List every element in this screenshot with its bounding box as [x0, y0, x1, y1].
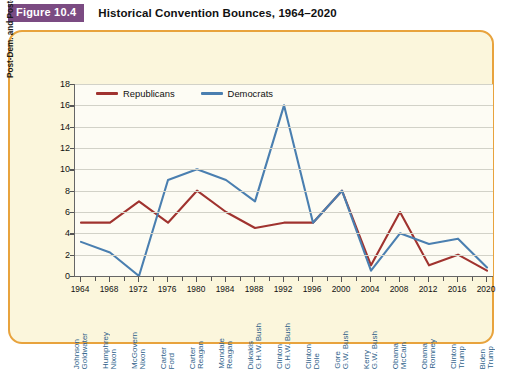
- x-year-label-1988: 1988: [245, 284, 264, 294]
- x-year-label-1964: 1964: [71, 284, 90, 294]
- x-year-label-1984: 1984: [216, 284, 235, 294]
- y-tick-label-16: 16: [48, 100, 70, 110]
- y-tick-label-14: 14: [48, 122, 70, 132]
- x-candidate-label-2004-rep: G.W. Bush: [371, 331, 379, 369]
- y-axis-label: Post-Dem. and Post-Rep. convention bounc…: [6, 0, 15, 78]
- x-candidate-label-1972-rep: Nixon: [139, 349, 147, 369]
- x-tick-minor-2008: [414, 277, 415, 281]
- chart-lines: [75, 84, 493, 276]
- x-year-label-2016: 2016: [448, 284, 467, 294]
- x-year-label-1972: 1972: [129, 284, 148, 294]
- x-tick-minor-2012: [443, 277, 444, 281]
- x-year-label-1980: 1980: [187, 284, 206, 294]
- y-tick-label-4: 4: [48, 228, 70, 238]
- gridline-4: [75, 233, 493, 234]
- legend-item-democrats[interactable]: Democrats: [201, 88, 273, 99]
- x-tick-mark-2004: [370, 277, 371, 282]
- x-candidate-label-2008-rep: McCain: [400, 342, 408, 369]
- chart-panel: Post-Dem. and Post-Rep. convention bounc…: [8, 30, 494, 344]
- x-candidate-label-1980-rep: Reagan: [197, 341, 205, 369]
- x-tick-minor-1964: [95, 277, 96, 281]
- series-line-republicans: [81, 191, 487, 271]
- y-tick-label-0: 0: [48, 271, 70, 281]
- x-tick-minor-2016: [472, 277, 473, 281]
- x-year-label-2000: 2000: [332, 284, 351, 294]
- x-candidate-label-2016-rep: Trump: [458, 346, 466, 369]
- legend-swatch-democrats: [201, 92, 223, 95]
- x-candidate-label-1992-rep: G.H.W. Bush: [284, 323, 292, 369]
- x-candidate-label-1964-rep: Goldwater: [81, 333, 89, 369]
- x-year-label-2012: 2012: [419, 284, 438, 294]
- y-tick-label-8: 8: [48, 186, 70, 196]
- x-tick-minor-1992: [298, 277, 299, 281]
- legend-item-republicans[interactable]: Republicans: [96, 88, 175, 99]
- figure-title: Historical Convention Bounces, 1964–2020: [98, 7, 337, 19]
- x-tick-mark-1972: [138, 277, 139, 282]
- x-tick-minor-2004: [385, 277, 386, 281]
- x-tick-mark-1976: [167, 277, 168, 282]
- figure-header: Figure 10.4 Historical Convention Bounce…: [0, 0, 511, 26]
- y-tick-label-18: 18: [48, 79, 70, 89]
- legend-label-democrats: Democrats: [228, 88, 273, 99]
- y-tick-label-6: 6: [48, 207, 70, 217]
- x-tick-mark-1996: [312, 277, 313, 282]
- x-year-label-2008: 2008: [390, 284, 409, 294]
- gridline-10: [75, 169, 493, 170]
- legend-swatch-republicans: [96, 92, 118, 95]
- x-tick-mark-2008: [399, 277, 400, 282]
- x-tick-minor-1988: [269, 277, 270, 281]
- y-axis-ticks: 024681012141618: [46, 84, 70, 276]
- x-tick-mark-2020: [486, 277, 487, 282]
- x-tick-mark-1988: [254, 277, 255, 282]
- x-tick-minor-1972: [153, 277, 154, 281]
- x-year-label-1996: 1996: [303, 284, 322, 294]
- x-candidate-label-1976-rep: Ford: [168, 353, 176, 369]
- x-axis-ticks: [74, 277, 494, 283]
- y-tick-label-12: 12: [48, 143, 70, 153]
- x-tick-minor-1976: [182, 277, 183, 281]
- gridline-14: [75, 127, 493, 128]
- x-candidate-label-2012-rep: Romney: [429, 339, 437, 369]
- x-year-label-1968: 1968: [100, 284, 119, 294]
- x-tick-mark-2012: [428, 277, 429, 282]
- x-year-label-2004: 2004: [361, 284, 380, 294]
- x-tick-mark-1968: [109, 277, 110, 282]
- gridline-12: [75, 148, 493, 149]
- x-candidate-label-1984-rep: Reagan: [226, 341, 234, 369]
- chart-legend: RepublicansDemocrats: [96, 88, 273, 99]
- figure-number-badge: Figure 10.4: [8, 4, 84, 22]
- gridline-2: [75, 255, 493, 256]
- x-year-label-1992: 1992: [274, 284, 293, 294]
- x-tick-minor-1984: [240, 277, 241, 281]
- legend-label-republicans: Republicans: [123, 88, 175, 99]
- x-year-label-2020: 2020: [477, 284, 496, 294]
- y-tick-label-10: 10: [48, 164, 70, 174]
- x-candidate-label-2020-rep: Trump: [487, 346, 495, 369]
- x-tick-mark-1984: [225, 277, 226, 282]
- x-tick-mark-1980: [196, 277, 197, 282]
- x-candidate-label-1996-rep: Dole: [313, 353, 321, 369]
- gridline-8: [75, 191, 493, 192]
- x-tick-mark-1964: [80, 277, 81, 282]
- x-tick-minor-1996: [327, 277, 328, 281]
- x-tick-minor-1968: [124, 277, 125, 281]
- x-axis-year-labels: 1964196819721976198019841988199219962000…: [74, 284, 494, 296]
- x-tick-mark-2000: [341, 277, 342, 282]
- gridline-6: [75, 212, 493, 213]
- x-year-label-1976: 1976: [158, 284, 177, 294]
- x-axis-candidate-labels: JohnsonGoldwaterHumphreyNixonMcGovernNix…: [74, 297, 494, 369]
- plot-area: [74, 84, 493, 277]
- x-tick-mark-2016: [457, 277, 458, 282]
- x-candidate-label-1968-rep: Nixon: [110, 349, 118, 369]
- x-tick-minor-1980: [211, 277, 212, 281]
- x-candidate-label-1988-rep: G.H.W. Bush: [255, 323, 263, 369]
- x-tick-mark-1992: [283, 277, 284, 282]
- x-candidate-label-2000-rep: G.W. Bush: [342, 331, 350, 369]
- y-tick-label-2: 2: [48, 250, 70, 260]
- x-tick-minor-2000: [356, 277, 357, 281]
- gridline-16: [75, 105, 493, 106]
- gridline-18: [75, 84, 493, 85]
